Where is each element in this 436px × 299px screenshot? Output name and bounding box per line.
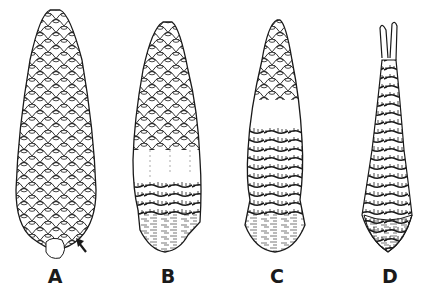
panel-label-d: D: [375, 265, 405, 287]
panel-label-b: B: [153, 265, 183, 287]
cone-d: [362, 22, 412, 252]
cone-c: [244, 15, 309, 257]
panel-label-c: C: [262, 265, 292, 287]
pine-cone-figure: [0, 0, 436, 299]
cone-a: [16, 10, 96, 258]
arrow-icon: [76, 238, 86, 252]
panel-label-a: A: [40, 265, 70, 287]
cone-b: [130, 15, 205, 257]
